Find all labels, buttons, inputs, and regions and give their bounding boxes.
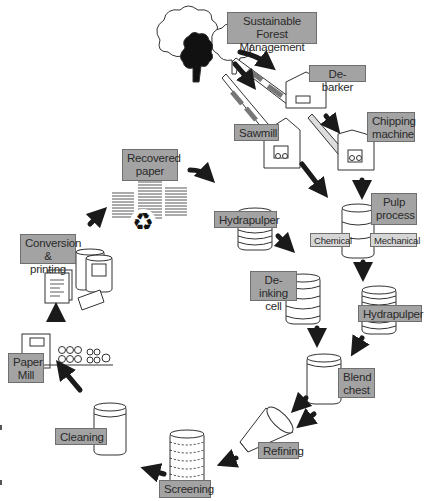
label-blend-chest: Blend chest: [338, 368, 375, 398]
label-conversion-printing: Conversion & printing: [20, 234, 76, 264]
label-refining: Refining: [258, 442, 299, 459]
svg-text:♻: ♻: [132, 208, 154, 236]
blend-chest-icon: [307, 354, 341, 404]
edge-mark: [0, 480, 2, 485]
recycle-icon: ♻: [130, 208, 156, 236]
label-debarker: De-barker: [309, 65, 366, 82]
label-recovered-paper: Recovered paper: [122, 149, 178, 181]
label-screening: Screening: [159, 480, 211, 498]
label-line: machine: [372, 128, 410, 141]
label-hydrapulper-1: Hydrapulper: [214, 211, 277, 228]
label-line: Cleaning: [60, 431, 102, 444]
screening-drum-icon: [170, 430, 204, 484]
label-line: Refining: [263, 445, 294, 458]
label-line: Mechanical: [374, 235, 413, 246]
label-line: Management: [232, 41, 312, 54]
label-line: Mill: [13, 369, 39, 382]
label-line: Paper: [13, 356, 39, 369]
label-mechanical: Mechanical: [370, 233, 417, 247]
label-chemical: Chemical: [310, 233, 350, 247]
label-line: chest: [343, 384, 370, 397]
label-line: Sawmill: [239, 127, 274, 140]
label-line: De-inking: [255, 274, 292, 300]
label-sustainable-forest: Sustainable Forest Management: [227, 12, 317, 44]
pulp-drum-icon: [342, 204, 374, 258]
label-chipping-machine: Chipping machine: [367, 112, 415, 142]
label-line: Screening: [164, 483, 206, 496]
label-line: De-barker: [314, 68, 361, 94]
label-paper-mill: Paper Mill: [8, 353, 44, 383]
label-sawmill: Sawmill: [234, 124, 279, 141]
label-line: paper: [127, 165, 173, 178]
label-line: Hydrapulper: [363, 308, 417, 321]
label-line: Blend: [343, 371, 370, 384]
label-line: Recovered: [127, 152, 173, 165]
label-line: cell: [255, 300, 292, 313]
label-pulp-process: Pulp process: [371, 193, 417, 225]
label-line: & printing: [25, 250, 71, 276]
label-line: Pulp: [376, 196, 412, 209]
label-line: Chemical: [314, 235, 346, 246]
edge-mark: [0, 425, 2, 430]
label-deinking-cell: De-inking cell: [250, 271, 297, 301]
label-line: Chipping: [372, 115, 410, 128]
label-hydrapulper-2: Hydrapulper: [358, 305, 422, 322]
label-line: process: [376, 209, 412, 222]
label-line: Sustainable Forest: [232, 15, 312, 41]
label-line: Hydrapulper: [219, 214, 272, 227]
label-cleaning: Cleaning: [55, 428, 107, 445]
label-line: Conversion: [25, 237, 71, 250]
